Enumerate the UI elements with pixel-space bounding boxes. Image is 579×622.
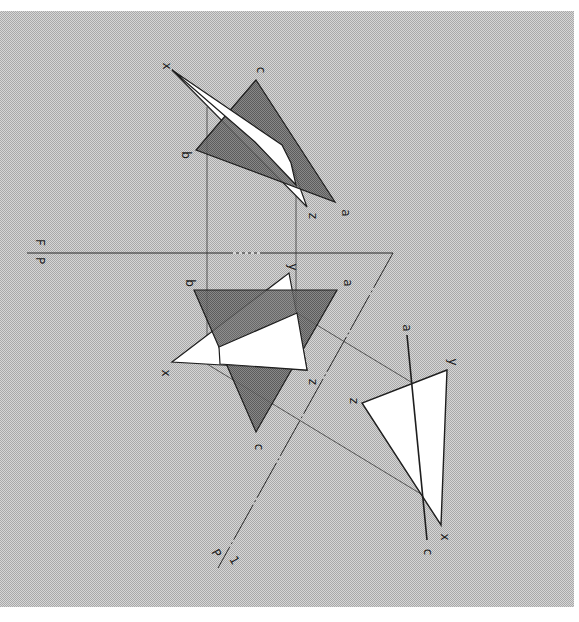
vertex-label-z: z xyxy=(306,213,320,219)
fp-label-p: P xyxy=(33,257,47,264)
vertex-label-c: c xyxy=(254,67,268,74)
vertex-label-y: y xyxy=(446,358,460,365)
vertex-label-z: z xyxy=(347,398,361,404)
vertex-label-b: b xyxy=(179,151,193,159)
vertex-label-z: z xyxy=(306,379,320,385)
vertex-label-a: a xyxy=(400,324,414,331)
vertex-label-c: c xyxy=(421,549,435,556)
vertex-label-b: b xyxy=(183,279,197,287)
vertex-label-x: x xyxy=(160,62,174,69)
vertex-label-y: y xyxy=(286,263,300,270)
vertex-label-a: a xyxy=(341,279,355,286)
vertex-label-c: c xyxy=(252,444,266,451)
descriptive-geometry-diagram: cbaxz F P P 1 bacxyz acyzx xyxy=(0,0,579,622)
vertex-label-x: x xyxy=(438,533,452,540)
fp-label-f: F xyxy=(33,239,47,246)
vertex-label-x: x xyxy=(159,369,173,376)
vertex-label-a: a xyxy=(339,209,353,216)
